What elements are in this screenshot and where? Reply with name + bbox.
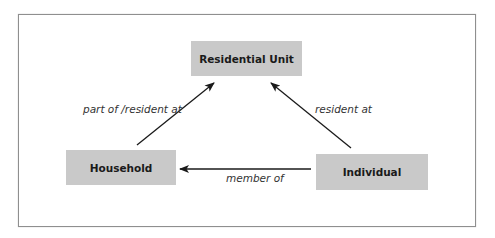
node-label: Individual [343,166,402,178]
edge-label-part-of-resident-at: part of /resident at [83,103,182,115]
edge-label-resident-at: resident at [315,103,372,115]
node-individual: Individual [316,154,428,190]
edge-label-member-of: member of [226,172,284,184]
edges-layer [0,0,495,238]
node-label: Residential Unit [199,53,294,65]
node-residential-unit: Residential Unit [191,41,302,76]
node-household: Household [66,150,176,185]
edge-individual-to-residential-unit [271,83,351,148]
node-label: Household [90,162,153,174]
